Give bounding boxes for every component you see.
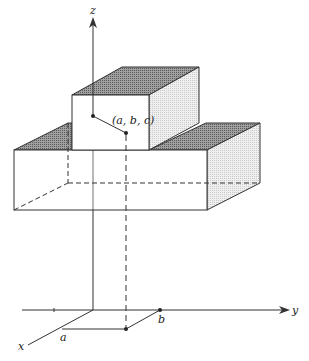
ground-point-dot: [124, 327, 128, 331]
lower-slab-left-top: [14, 123, 72, 150]
x-axis-label: x: [18, 340, 25, 353]
b-dot: [158, 308, 162, 312]
a-label: a: [60, 331, 67, 344]
ground-projection: a b: [60, 308, 165, 344]
lower-slab-front-face: [14, 150, 207, 210]
z-axis-label: z: [89, 4, 96, 17]
point-dot: [124, 131, 128, 135]
b-label: b: [158, 313, 165, 326]
diagram-canvas: z y x (a, b, c) a b: [0, 0, 309, 361]
z-projection-dot: [91, 114, 95, 118]
y-axis-label: y: [291, 304, 299, 317]
point-label: (a, b, c): [112, 114, 154, 127]
